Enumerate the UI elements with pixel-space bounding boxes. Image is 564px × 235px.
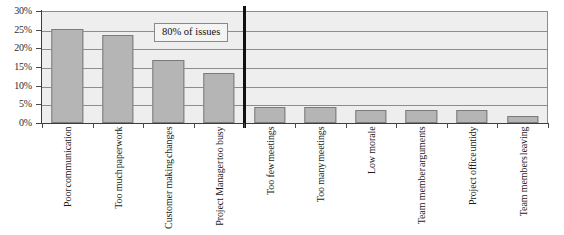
bar[interactable] xyxy=(406,110,437,123)
x-axis-label-line: Too many xyxy=(315,162,326,202)
bar[interactable] xyxy=(507,116,538,123)
x-axis-label-line: communication xyxy=(62,126,73,188)
x-axis-label: Too muchpaperwork xyxy=(112,126,123,209)
x-label-slot: Team membersleaving xyxy=(497,126,548,234)
bar-slot xyxy=(42,11,93,123)
x-axis-label: Too manymeetings xyxy=(315,126,326,203)
x-axis-label: Poorcommunication xyxy=(62,126,73,207)
x-axis-label: Project officeuntidy xyxy=(467,126,478,206)
bar-slot xyxy=(295,11,346,123)
x-tick-mark xyxy=(548,123,549,128)
y-tick-label: 30% xyxy=(14,6,32,16)
x-axis-label-line: too busy xyxy=(214,126,225,160)
x-tick-mark xyxy=(447,123,448,128)
x-tick-mark xyxy=(42,123,43,128)
x-label-slot: Poorcommunication xyxy=(42,126,93,234)
bar[interactable] xyxy=(203,73,234,123)
x-label-slot: Too manymeetings xyxy=(295,126,346,234)
x-label-slot: Project officeuntidy xyxy=(447,126,498,234)
bar[interactable] xyxy=(305,107,336,123)
x-axis-label-line: meetings xyxy=(315,126,326,162)
x-axis-label-line: Too few xyxy=(264,162,275,195)
pareto-chart: 0%5%10%15%20%25%30% 80% of issues Poorco… xyxy=(0,0,564,235)
x-label-slot: Customer makingchanges xyxy=(143,126,194,234)
x-axis-label-line: meetings xyxy=(264,126,275,162)
x-axis-label-line: paperwork xyxy=(112,126,123,169)
x-axis-label: Customer makingchanges xyxy=(163,126,174,229)
x-axis-label-line: arguments xyxy=(416,126,427,168)
x-axis-label-line: changes xyxy=(163,126,174,159)
bar-slot xyxy=(396,11,447,123)
bar-slot xyxy=(93,11,144,123)
x-axis-label-line: Low morale xyxy=(365,126,376,175)
x-axis-label-line: Project office xyxy=(467,152,478,206)
y-tick-label: 10% xyxy=(14,81,32,91)
annotation-80-percent: 80% of issues xyxy=(154,23,228,42)
y-tick-label: 0% xyxy=(19,118,32,128)
bar[interactable] xyxy=(355,110,386,123)
bar[interactable] xyxy=(456,110,487,123)
x-axis-label-line: Project Manager xyxy=(214,160,225,226)
x-tick-mark xyxy=(93,123,94,128)
x-axis-label-line: Team member xyxy=(416,168,427,225)
x-axis-label: Team membersleaving xyxy=(517,126,528,217)
bar-slot xyxy=(346,11,397,123)
bar-slot xyxy=(447,11,498,123)
x-tick-mark xyxy=(143,123,144,128)
x-label-slot: Low morale xyxy=(346,126,397,234)
x-axis-label-line: Customer making xyxy=(163,159,174,230)
x-tick-mark xyxy=(396,123,397,128)
y-tick-label: 25% xyxy=(14,25,32,35)
bar[interactable] xyxy=(102,35,133,123)
x-label-slot: Team memberarguments xyxy=(396,126,447,234)
x-tick-mark xyxy=(497,123,498,128)
x-axis-label: Team memberarguments xyxy=(416,126,427,225)
x-tick-mark xyxy=(295,123,296,128)
x-axis-label-line: leaving xyxy=(517,126,528,156)
x-label-slot: Too muchpaperwork xyxy=(93,126,144,234)
y-tick-label: 15% xyxy=(14,62,32,72)
x-axis-label-line: Poor xyxy=(62,188,73,208)
x-axis-label-line: Too much xyxy=(112,169,123,209)
x-axis-label-line: Team members xyxy=(517,156,528,217)
x-tick-mark xyxy=(244,123,245,128)
bars-layer xyxy=(42,11,548,123)
y-tick-label: 20% xyxy=(14,43,32,53)
y-tick-label: 5% xyxy=(19,99,32,109)
x-axis-label: Too fewmeetings xyxy=(264,126,275,196)
x-label-slot: Project Managertoo busy xyxy=(194,126,245,234)
bar-slot xyxy=(497,11,548,123)
x-tick-mark xyxy=(346,123,347,128)
x-axis-label: Low morale xyxy=(365,126,376,175)
bar-slot xyxy=(244,11,295,123)
x-axis-labels: PoorcommunicationToo muchpaperworkCustom… xyxy=(42,126,548,234)
x-tick-mark xyxy=(194,123,195,128)
bar[interactable] xyxy=(254,107,285,123)
x-axis-line xyxy=(36,123,549,124)
vital-few-divider xyxy=(243,6,246,128)
bar[interactable] xyxy=(52,29,83,123)
bar[interactable] xyxy=(153,60,184,123)
x-axis-label-line: untidy xyxy=(467,126,478,152)
y-axis: 0%5%10%15%20%25%30% xyxy=(0,0,36,128)
x-label-slot: Too fewmeetings xyxy=(244,126,295,234)
x-axis-label: Project Managertoo busy xyxy=(214,126,225,226)
